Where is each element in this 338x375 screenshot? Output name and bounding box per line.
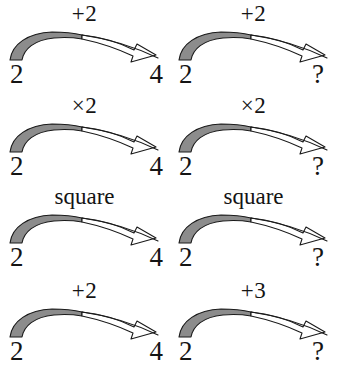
analogy-cell-left: +2 2 4	[0, 0, 169, 90]
operation-label: +2	[0, 1, 169, 27]
transformation-arrow	[6, 211, 169, 249]
transformation-arrow	[6, 28, 169, 66]
source-value: 2	[179, 59, 193, 89]
transformation-arrow	[6, 305, 169, 343]
target-value: ?	[312, 59, 324, 89]
source-value: 2	[10, 242, 24, 272]
transformation-arrow	[6, 120, 169, 158]
analogy-row: +2 2 4 +3 2 ?	[0, 277, 338, 367]
target-value: ?	[312, 336, 324, 366]
analogy-cell-left: square 2 4	[0, 183, 169, 273]
analogy-cell-left: +2 2 4	[0, 277, 169, 367]
operation-label: square	[169, 184, 338, 210]
target-value: 4	[150, 336, 164, 366]
target-value: ?	[312, 242, 324, 272]
source-value: 2	[10, 59, 24, 89]
source-value: 2	[10, 336, 24, 366]
analogy-row: +2 2 4 +2 2 ?	[0, 0, 338, 90]
analogy-cell-right: ×2 2 ?	[169, 92, 338, 182]
target-value: 4	[150, 151, 164, 181]
curved-arrow-icon	[6, 28, 169, 66]
source-value: 2	[10, 151, 24, 181]
target-value: 4	[150, 59, 164, 89]
operation-label: ×2	[169, 93, 338, 119]
operation-label: +2	[0, 278, 169, 304]
analogy-diagram-figure: +2 2 4 +2 2 ?	[0, 0, 338, 375]
curved-arrow-icon	[6, 211, 169, 249]
source-value: 2	[179, 151, 193, 181]
analogy-row: square 2 4 square 2 ?	[0, 183, 338, 273]
source-value: 2	[179, 242, 193, 272]
operation-label: square	[0, 184, 169, 210]
analogy-row: ×2 2 4 ×2 2 ?	[0, 92, 338, 182]
target-value: ?	[312, 151, 324, 181]
target-value: 4	[150, 242, 164, 272]
analogy-cell-left: ×2 2 4	[0, 92, 169, 182]
operation-label: ×2	[0, 93, 169, 119]
operation-label: +2	[169, 1, 338, 27]
analogy-cell-right: +3 2 ?	[169, 277, 338, 367]
operation-label: +3	[169, 278, 338, 304]
analogy-cell-right: square 2 ?	[169, 183, 338, 273]
source-value: 2	[179, 336, 193, 366]
curved-arrow-icon	[6, 120, 169, 158]
analogy-cell-right: +2 2 ?	[169, 0, 338, 90]
curved-arrow-icon	[6, 305, 169, 343]
